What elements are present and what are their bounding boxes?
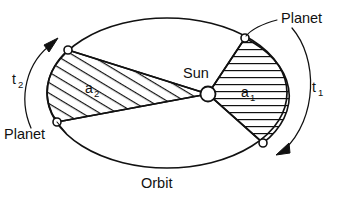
- planet-left-label: Planet: [4, 126, 45, 142]
- planet-right-leader-line: [246, 20, 277, 36]
- area-a2-subscript: 2: [94, 88, 99, 99]
- marker-bottom-right: [259, 139, 267, 147]
- time-t2-subscript: 2: [18, 79, 23, 90]
- planet-right-label: Planet: [281, 10, 322, 26]
- t2-arrow-head: [44, 38, 58, 52]
- kepler-second-law-diagram: Sun Orbit Planet Planet a 1 a 2 t 1 t 2: [0, 0, 339, 200]
- time-t2-base: t: [12, 71, 16, 87]
- time-t1-subscript: 1: [318, 87, 323, 98]
- t1-arrow-head: [276, 143, 290, 155]
- area-a1-subscript: 1: [250, 92, 255, 103]
- marker-top-left: [64, 46, 72, 54]
- sun-body: [201, 87, 216, 102]
- time-t1-label: t 1: [312, 79, 323, 98]
- marker-top-right: [241, 34, 249, 42]
- time-t1-base: t: [312, 79, 316, 95]
- sun-label: Sun: [183, 65, 209, 81]
- orbit-label: Orbit: [141, 175, 172, 191]
- area-a2-base: a: [85, 80, 93, 96]
- time-t2-label: t 2: [12, 71, 23, 90]
- figure-canvas: Sun Orbit Planet Planet a 1 a 2 t 1 t 2: [0, 0, 339, 200]
- area-a1-base: a: [241, 84, 249, 100]
